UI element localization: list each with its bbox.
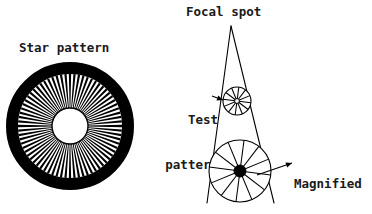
star-pattern-spoke <box>71 74 75 108</box>
star-pattern-spoke <box>88 127 122 131</box>
figure-root: Star pattern Focal spot Test pattern Mag… <box>0 0 372 214</box>
star-pattern-spoke <box>18 127 52 131</box>
star-pattern-graphic <box>12 68 128 184</box>
star-pattern-spoke <box>71 144 75 178</box>
star-pattern-spoke <box>64 144 68 178</box>
magnified-image-wheel-hub <box>234 165 246 177</box>
star-pattern-spoke <box>18 125 52 127</box>
magnified-image-wheel-graphic <box>209 140 271 202</box>
diagram-artwork <box>0 0 372 214</box>
star-pattern-spoke <box>64 74 68 108</box>
star-pattern-spoke <box>69 144 71 178</box>
star-pattern-spoke <box>18 120 52 124</box>
star-pattern-spoke <box>88 125 122 127</box>
star-pattern-spoke <box>88 120 122 124</box>
test-pattern-wheel-hub <box>235 99 240 104</box>
star-pattern-spoke <box>69 74 71 108</box>
magnified-image-arrow-head <box>285 162 292 167</box>
star-pattern-hub <box>52 108 88 144</box>
test-pattern-wheel-graphic <box>223 87 251 115</box>
